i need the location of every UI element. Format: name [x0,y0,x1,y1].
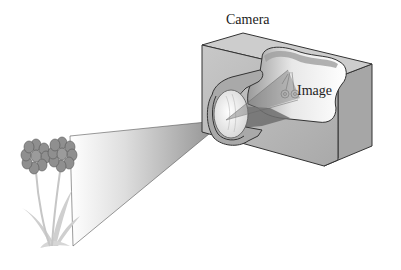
light-cone [70,120,226,246]
camera-diagram [0,0,401,270]
flower-right [48,137,77,172]
flower-left [21,139,51,174]
image-label: Image [297,84,332,98]
flower-object [21,137,80,248]
diagram-canvas: Camera Image [0,0,401,270]
camera-label: Camera [226,13,270,27]
